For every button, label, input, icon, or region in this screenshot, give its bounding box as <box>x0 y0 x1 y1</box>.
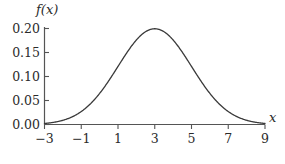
density-curve <box>45 29 266 124</box>
x-tick-label: 7 <box>208 131 248 146</box>
y-tick-label: 0.05 <box>0 93 40 108</box>
x-tick-label: −3 <box>25 131 65 146</box>
x-tick-label: −1 <box>61 131 101 146</box>
y-tick-label: 0.00 <box>0 117 40 132</box>
x-tick-label: 5 <box>172 131 212 146</box>
normal-distribution-figure: f(x) x 0.000.050.100.150.20 −3−113579 <box>0 0 285 164</box>
y-axis-label: f(x) <box>36 2 58 17</box>
x-tick-label: 9 <box>245 131 285 146</box>
x-axis-label: x <box>269 110 276 125</box>
x-tick-label: 1 <box>98 131 138 146</box>
y-tick-label: 0.15 <box>0 45 40 60</box>
y-tick-label: 0.20 <box>0 21 40 36</box>
x-tick-label: 3 <box>135 131 175 146</box>
y-tick-label: 0.10 <box>0 69 40 84</box>
x-axis-ticks <box>45 125 266 130</box>
y-axis-ticks <box>45 29 50 125</box>
